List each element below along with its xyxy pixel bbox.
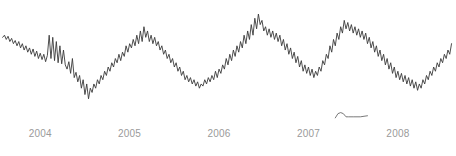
sparkline-chart: 20042005200620072008: [0, 0, 456, 156]
series-line-main-series: [3, 14, 452, 99]
series-line-inset-series: [335, 113, 367, 118]
x-axis-tick-label: 2006: [208, 128, 231, 140]
x-axis-tick-label: 2004: [29, 128, 52, 140]
x-axis-tick-label: 2008: [386, 128, 409, 140]
x-axis-tick-label: 2007: [297, 128, 320, 140]
x-axis-tick-label: 2005: [118, 128, 141, 140]
x-axis: 20042005200620072008: [0, 128, 456, 146]
